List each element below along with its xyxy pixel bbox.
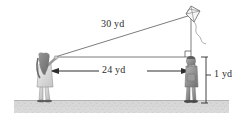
base-label: 24 yd — [102, 64, 126, 75]
kite-tail — [194, 22, 206, 44]
woman-flying-kite — [37, 52, 58, 102]
height-label: 1 yd — [214, 68, 232, 79]
diagram-canvas: 30 yd 24 yd 1 yd — [0, 0, 243, 124]
child-standing — [184, 56, 198, 103]
height-dimension-bracket — [201, 57, 211, 103]
kite-icon — [186, 6, 206, 44]
hypotenuse-label: 30 yd — [101, 18, 125, 29]
